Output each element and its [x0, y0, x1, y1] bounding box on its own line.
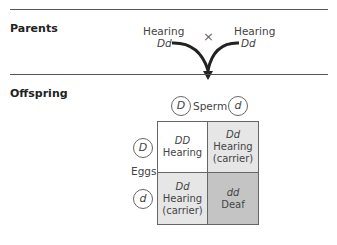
sperm-label: Sperm [193, 100, 227, 112]
cell-Dd-top: Dd Hearing (carrier) [208, 122, 258, 173]
cell-dd: dd Deaf [208, 173, 258, 224]
sperm-allele-d: d [228, 96, 248, 116]
punnett-square: DD Hearing Dd Hearing (carrier) Dd Heari… [157, 121, 259, 225]
egg-allele-D: D [133, 138, 153, 158]
cell-DD: DD Hearing [158, 122, 208, 173]
sperm-allele-D: D [171, 96, 191, 116]
egg-allele-d: d [133, 189, 153, 209]
cell-Dd-bottom: Dd Hearing (carrier) [158, 173, 208, 224]
offspring-label: Offspring [10, 87, 68, 100]
middle-rule [10, 74, 328, 75]
eggs-label: Eggs [131, 165, 156, 177]
